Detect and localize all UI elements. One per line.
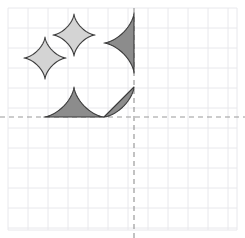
light-astroid-upper: [53, 14, 95, 56]
light-astroid-lower: [24, 37, 66, 79]
shapes-layer: [24, 13, 134, 117]
astroid-figure-canvas: [0, 0, 245, 238]
plot-svg: [0, 0, 245, 238]
dark-astroid-half-at-x-axis: [44, 87, 104, 117]
